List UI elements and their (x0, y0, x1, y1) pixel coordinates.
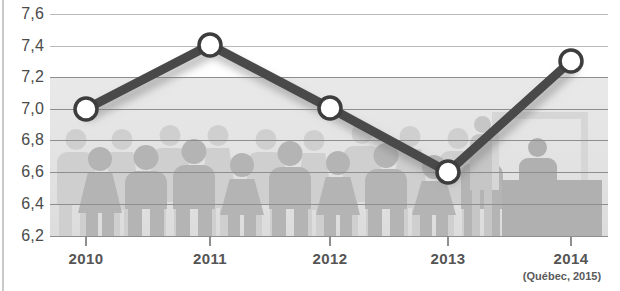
x-tick (447, 237, 449, 246)
gridline-6-8 (50, 140, 608, 141)
gridline-7-6 (50, 14, 608, 15)
desk-side-person-leg (472, 186, 480, 237)
x-tick (209, 237, 211, 246)
gridline-6-4 (50, 204, 608, 205)
x-tick-label-2010: 2010 (69, 250, 104, 267)
gridline-7-4 (50, 46, 608, 47)
desk-side-person-head (474, 116, 491, 133)
source-note: (Québec, 2015) (523, 270, 601, 282)
x-tick (329, 237, 331, 246)
gridline-7-2 (50, 77, 608, 78)
gridline-6-6 (50, 172, 608, 173)
y-tick-label: 7,2 (0, 68, 44, 86)
y-tick-label: 6,2 (0, 227, 44, 245)
x-tick-label-2014: 2014 (554, 250, 589, 267)
x-tick (85, 237, 87, 246)
x-tick-label-2013: 2013 (431, 250, 466, 267)
reception-desk-person-icon (470, 112, 602, 237)
x-tick-label-2012: 2012 (313, 250, 348, 267)
crowd-figure (316, 131, 360, 237)
crowd-figure (364, 125, 408, 237)
x-tick-label-2011: 2011 (193, 250, 227, 267)
plot-area (50, 77, 608, 237)
chart-container: 7,6 7,4 7,2 7,0 6,8 6,6 6,4 6,2 2010 201… (0, 0, 620, 291)
desk-side-person-body (470, 134, 494, 190)
y-tick-label: 6,4 (0, 195, 44, 213)
x-tick (570, 237, 572, 246)
y-tick-label: 7,6 (0, 5, 44, 23)
y-tick-label: 6,6 (0, 163, 44, 181)
y-tick-label: 6,8 (0, 131, 44, 149)
y-tick-label: 7,4 (0, 37, 44, 55)
y-tick-label: 7,0 (0, 100, 44, 118)
crowd-figure (412, 131, 456, 237)
desk-side-person-leg (484, 186, 492, 237)
desk-counter (502, 180, 602, 237)
crowd-figure (78, 129, 122, 237)
crowd-figure (268, 125, 312, 237)
gridline-7-0 (50, 109, 608, 110)
crowd-figure (124, 125, 168, 237)
crowd-figure (220, 131, 264, 237)
crowd-figure (172, 125, 216, 237)
